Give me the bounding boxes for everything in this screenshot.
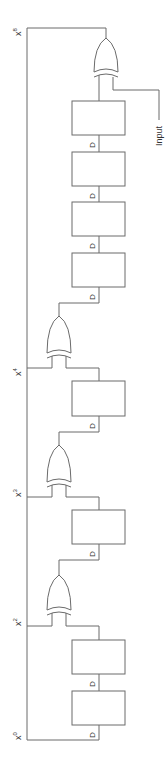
svg-text:x4: x4 xyxy=(12,368,23,377)
wire-gate4-r5 xyxy=(66,356,99,381)
wire-r5-gate3 xyxy=(59,416,99,445)
xor-gate-x4 xyxy=(47,316,71,358)
register-8 xyxy=(72,691,125,725)
register-6-d-label: D xyxy=(88,551,97,557)
wire-r4-gate4 xyxy=(59,287,99,316)
tap-label-x2: x2 xyxy=(12,618,23,627)
register-3-d-label: D xyxy=(88,243,97,249)
xor-gate-x2 xyxy=(47,575,71,615)
lfsr-diagram: D D D D D D D D x8 x4 x3 x2 x0 Input xyxy=(0,0,165,773)
xor-gate-x8 xyxy=(94,38,118,77)
tap-label-x3: x3 xyxy=(12,489,23,498)
register-7-d-label: D xyxy=(88,681,97,687)
register-8-d-label: D xyxy=(88,732,97,738)
register-4-d-label: D xyxy=(88,294,97,300)
register-7 xyxy=(72,640,125,674)
svg-text:x3: x3 xyxy=(12,489,23,498)
tap-label-x8: x8 xyxy=(12,28,23,37)
register-3 xyxy=(72,202,125,236)
wire-gate2-r7 xyxy=(66,613,99,640)
xor-gate-x3 xyxy=(47,445,71,487)
svg-text:x0: x0 xyxy=(12,732,23,741)
svg-text:x2: x2 xyxy=(12,618,23,627)
tap-label-x4: x4 xyxy=(12,368,23,377)
register-6 xyxy=(72,510,125,544)
svg-text:x8: x8 xyxy=(12,28,23,37)
input-label: Input xyxy=(154,125,164,146)
register-2-d-label: D xyxy=(88,193,97,199)
register-1 xyxy=(72,101,125,135)
wire-r6-gate2 xyxy=(59,544,99,575)
register-4 xyxy=(72,253,125,287)
register-5-d-label: D xyxy=(88,423,97,429)
register-5 xyxy=(72,381,125,416)
tap-label-x0: x0 xyxy=(12,732,23,741)
wire-gate3-r6 xyxy=(66,485,99,510)
register-2 xyxy=(72,152,125,186)
register-1-d-label: D xyxy=(88,142,97,148)
